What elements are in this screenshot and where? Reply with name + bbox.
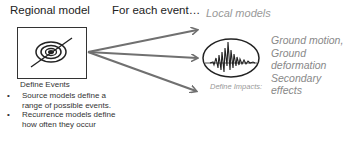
seismogram-icon (203, 39, 259, 77)
define-impacts-caption: Define Impacts: (210, 82, 262, 91)
impact-line: effects (271, 84, 343, 97)
impact-line: Ground (271, 47, 343, 60)
impact-line: Ground motion, (271, 34, 343, 47)
impact-line: deformation (271, 59, 343, 72)
arrow-to-local-models (88, 30, 197, 52)
impacts-list: Ground motion, Ground deformation Second… (271, 34, 343, 97)
impact-line: Secondary (271, 72, 343, 85)
